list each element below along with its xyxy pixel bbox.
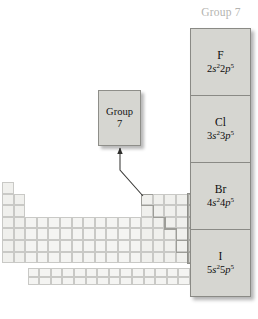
figure-root: Group 7 Group 7 F2s22p5Cl3s23p5Br4s24p5I… xyxy=(0,0,258,319)
element-configuration: 5s25p5 xyxy=(207,263,234,277)
halogen-elements-panel: F2s22p5Cl3s23p5Br4s24p5I5s25p5 xyxy=(190,28,251,297)
element-configuration: 3s23p5 xyxy=(207,129,234,143)
element-cell: Cl3s23p5 xyxy=(191,96,250,163)
element-configuration: 2s22p5 xyxy=(207,62,234,76)
element-symbol: Cl xyxy=(215,115,226,129)
callout-line-1: Group xyxy=(106,106,133,118)
element-cell: F2s22p5 xyxy=(191,29,250,96)
element-symbol: I xyxy=(219,249,223,263)
element-symbol: Br xyxy=(215,182,227,196)
callout-line-2: 7 xyxy=(117,118,122,130)
element-symbol: F xyxy=(217,48,223,62)
element-cell: Br4s24p5 xyxy=(191,163,250,230)
element-configuration: 4s24p5 xyxy=(207,196,234,210)
element-cell: I5s25p5 xyxy=(191,230,250,296)
panel-title: Group 7 xyxy=(190,6,252,18)
group7-callout-box: Group 7 xyxy=(98,90,141,146)
